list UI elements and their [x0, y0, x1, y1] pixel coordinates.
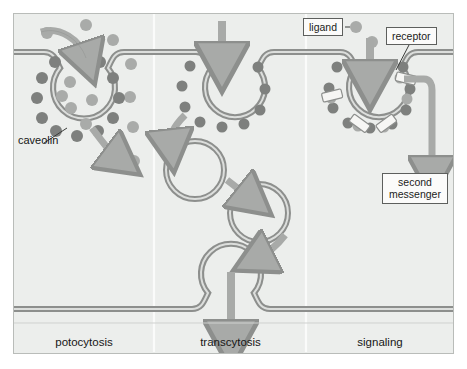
panel-label-signaling: signaling	[307, 336, 453, 348]
transcytosis-coat-dots	[177, 61, 271, 133]
top-membrane	[14, 52, 453, 119]
transcytosis-vesicle-1	[166, 141, 224, 199]
panel-label-potocytosis: potocytosis	[14, 336, 154, 348]
diagram-canvas: caveolin ligand receptor second messenge…	[0, 0, 467, 369]
caveolin-label: caveolin	[18, 134, 58, 146]
second-messenger-line-2: messenger	[389, 188, 441, 200]
panel-label-transcytosis: transcytosis	[155, 336, 306, 348]
second-messenger-line-1: second	[398, 176, 432, 188]
ligand-label: ligand	[303, 18, 343, 36]
potocytosis-out-arrow	[92, 128, 118, 158]
second-messenger-label: second messenger	[382, 173, 448, 204]
receptor-label: receptor	[386, 27, 437, 45]
transcytosis-panel-graphics	[166, 21, 288, 338]
